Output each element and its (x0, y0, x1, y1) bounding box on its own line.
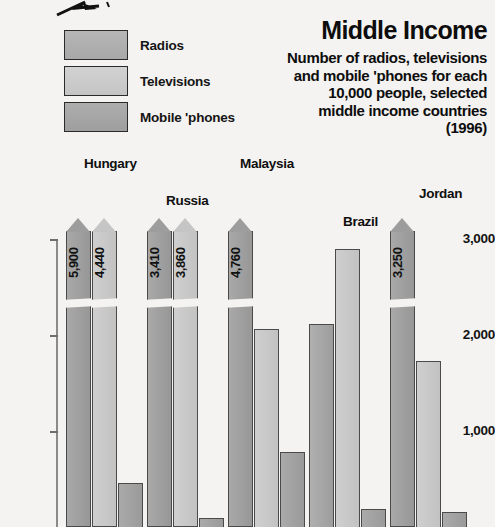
bar-value-label: 3,250 (390, 237, 415, 289)
country-label-malaysia: Malaysia (240, 156, 294, 171)
country-label-jordan: Jordan (419, 186, 462, 201)
bar-arrow-head-icon (390, 218, 414, 232)
bar-brazil-mobilephones (361, 509, 386, 527)
country-label-hungary: Hungary (84, 156, 137, 171)
bar-arrow-head-icon (173, 218, 197, 232)
bar-break-marker (227, 298, 254, 307)
bar-hungary-mobilephones (118, 483, 143, 527)
bar-value-label: 3,410 (147, 237, 172, 289)
bar-plot-area: Hungary5,9004,440Russia3,4103,860Malaysi… (0, 0, 495, 527)
bar-arrow-head-icon (228, 218, 252, 232)
bar-arrow-head-icon (147, 218, 171, 232)
bar-value-label: 3,860 (173, 237, 198, 289)
bar-jordan-radios: 3,250 (390, 231, 415, 527)
bar-jordan-televisions (416, 361, 441, 527)
country-label-russia: Russia (166, 193, 208, 208)
bar-russia-televisions: 3,860 (173, 231, 198, 527)
bar-russia-mobilephones (199, 518, 224, 527)
chart-root: Radios Televisions Mobile 'phones Middle… (0, 0, 495, 527)
bar-value-label: 4,760 (228, 237, 253, 289)
bar-value-label: 5,900 (66, 237, 91, 289)
country-label-brazil: Brazil (343, 214, 378, 229)
bar-jordan-mobilephones (442, 512, 467, 527)
bar-hungary-radios: 5,900 (66, 231, 91, 527)
bar-break-marker (146, 298, 173, 307)
bar-malaysia-mobilephones (280, 452, 305, 527)
bar-break-marker (91, 298, 118, 307)
bar-arrow-head-icon (66, 218, 90, 232)
bar-malaysia-radios: 4,760 (228, 231, 253, 527)
bar-malaysia-televisions (254, 329, 279, 527)
bar-break-marker (65, 298, 92, 307)
bar-arrow-head-icon (92, 218, 116, 232)
bar-brazil-radios (309, 324, 334, 527)
bar-hungary-televisions: 4,440 (92, 231, 117, 527)
bar-break-marker (389, 298, 416, 307)
bar-break-marker (172, 298, 199, 307)
bar-russia-radios: 3,410 (147, 231, 172, 527)
bar-value-label: 4,440 (92, 237, 117, 289)
bar-brazil-televisions (335, 249, 360, 527)
